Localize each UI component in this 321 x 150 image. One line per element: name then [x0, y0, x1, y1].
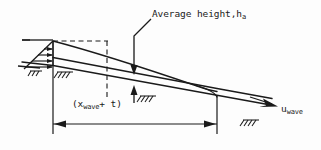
dimension-arrowhead-left	[54, 121, 66, 128]
u-wave-label: uwave	[281, 104, 303, 116]
velocity-arrowhead-2	[47, 53, 53, 57]
x-wave-suffix: + t)	[99, 98, 121, 109]
average-height-text: Average height,h	[152, 8, 242, 19]
x-wave-prefix: (x	[72, 98, 83, 109]
x-wave-subscript: wave	[83, 103, 99, 111]
x-wave-dimension-label: (xwave+ t)	[72, 99, 122, 111]
average-height-label: Average height,ha	[152, 9, 246, 21]
u-wave-subscript: wave	[287, 108, 303, 116]
ground-hatch-2	[137, 96, 156, 102]
wave-layer-schematic	[0, 0, 321, 150]
thickness-arrowhead	[131, 85, 138, 95]
ground-hatch-4	[28, 71, 42, 76]
dimension-line-group	[53, 41, 217, 134]
thickness-up-arrow	[131, 85, 138, 103]
ground-hatch-symbols	[28, 71, 259, 126]
ground-hatch-1	[54, 72, 73, 78]
ground-hatch-3	[240, 120, 259, 126]
average-height-subscript: a	[242, 13, 246, 21]
mid-incline-line	[53, 58, 272, 99]
dashed-construction-lines	[53, 41, 108, 97]
velocity-arrowhead-3	[47, 59, 53, 63]
velocity-arrowhead-1	[47, 47, 53, 51]
figure-container: Average height,ha (xwave+ t) uwave	[0, 0, 321, 150]
dimension-arrowhead-right	[204, 121, 216, 128]
average-height-leader-path	[134, 19, 151, 66]
